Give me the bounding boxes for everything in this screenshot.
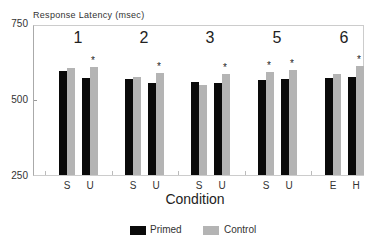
bar-primed: [125, 79, 133, 175]
bar-control: [199, 85, 207, 175]
bar-primed: [214, 83, 222, 175]
significance-star: *: [220, 62, 230, 73]
group-label: 2: [129, 29, 159, 47]
plot-area: [33, 25, 364, 176]
condition-label: S: [59, 180, 75, 191]
bar-control: [90, 67, 98, 175]
condition-label: S: [191, 180, 207, 191]
bar-control: [333, 74, 341, 175]
bar-control: [356, 66, 364, 175]
significance-star: *: [154, 61, 164, 72]
bar-primed: [348, 77, 356, 175]
bar-control: [133, 77, 141, 175]
condition-label: U: [82, 180, 98, 191]
condition-label: U: [148, 180, 164, 191]
bar-control: [289, 70, 297, 175]
group-label: 1: [63, 29, 93, 47]
x-minor-tick: [112, 171, 113, 175]
significance-star: *: [354, 54, 364, 65]
bar-primed: [191, 82, 199, 175]
condition-label: E: [325, 180, 341, 191]
x-minor-tick: [178, 171, 179, 175]
x-minor-tick: [45, 171, 46, 175]
condition-label: H: [348, 180, 364, 191]
significance-star: *: [88, 55, 98, 66]
x-minor-tick: [311, 171, 312, 175]
group-label: 6: [329, 29, 359, 47]
significance-star: *: [287, 58, 297, 69]
x-axis-title: Condition: [150, 191, 240, 207]
y-axis-title: Response Latency (msec): [33, 10, 144, 20]
bar-primed: [325, 78, 333, 175]
y-tick-250: 250: [0, 170, 28, 181]
significance-star: *: [264, 60, 274, 71]
bar-control: [266, 72, 274, 175]
y-tick-750: 750: [0, 18, 28, 29]
bar-control: [67, 68, 75, 175]
x-minor-tick: [245, 171, 246, 175]
legend-control-swatch: [203, 226, 219, 235]
condition-label: U: [281, 180, 297, 191]
bar-primed: [82, 78, 90, 175]
group-label: 3: [195, 29, 225, 47]
bar-primed: [281, 79, 289, 175]
condition-label: S: [125, 180, 141, 191]
legend-control-label: Control: [224, 224, 256, 235]
legend-primed-swatch: [130, 226, 146, 235]
y-tick-500: 500: [0, 94, 28, 105]
bar-primed: [59, 71, 67, 175]
group-label: 5: [262, 29, 292, 47]
bar-primed: [148, 83, 156, 175]
bar-primed: [258, 80, 266, 175]
condition-label: U: [214, 180, 230, 191]
bar-control: [222, 74, 230, 175]
condition-label: S: [258, 180, 274, 191]
bar-control: [156, 73, 164, 175]
legend-primed-label: Primed: [150, 224, 182, 235]
